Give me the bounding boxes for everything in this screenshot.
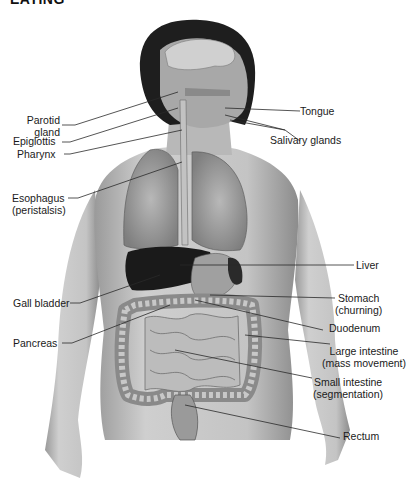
anatomy-figure	[0, 0, 411, 489]
small-intestine	[145, 314, 240, 392]
label-duodenum: Duodenum	[329, 323, 380, 335]
label-tongue: Tongue	[300, 106, 334, 118]
label-pharynx: Pharynx	[17, 149, 56, 161]
label-esophagus: Esophagus (peristalsis)	[12, 193, 66, 216]
label-small-intestine: Small intestine (segmentation)	[313, 377, 383, 400]
label-epiglottis: Epiglottis	[13, 136, 56, 148]
digestive-diagram: EATING	[0, 0, 411, 489]
label-stomach: Stomach (churning)	[335, 293, 382, 316]
label-rectum: Rectum	[343, 431, 379, 443]
label-gall-bladder: Gall bladder	[13, 298, 70, 310]
label-pancreas: Pancreas	[13, 338, 57, 350]
label-liver: Liver	[356, 260, 379, 272]
label-large-intestine: Large intestine (mass movement)	[322, 346, 406, 369]
label-salivary-glands: Salivary glands	[270, 135, 341, 147]
